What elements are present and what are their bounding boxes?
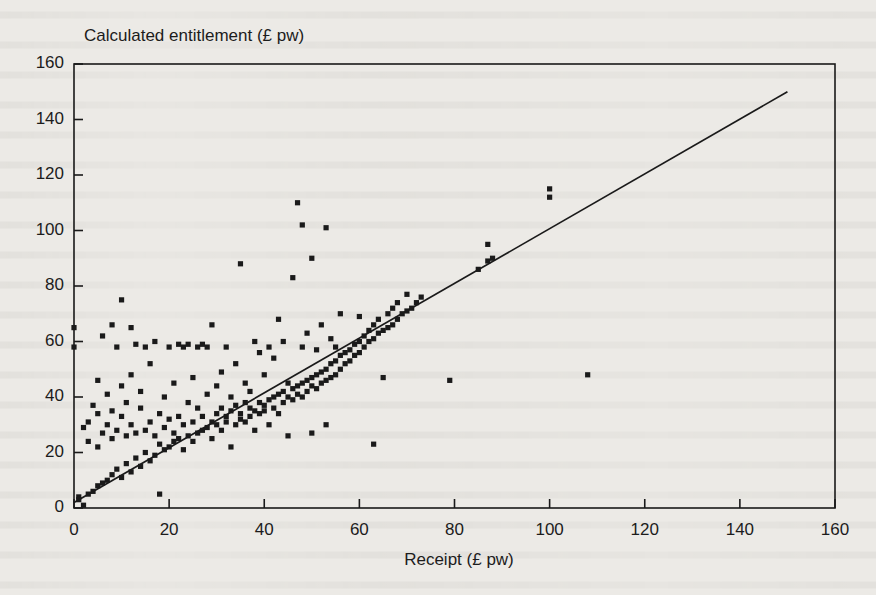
x-tick-label: 80 [435,520,475,540]
scatter-plot-figure: Calculated entitlement (£ pw) 0204060801… [0,0,876,595]
y-tick-label: 60 [8,331,64,351]
x-tick-label: 140 [720,520,760,540]
plot-canvas [0,0,876,595]
y-tick-label: 40 [8,386,64,406]
x-tick-label: 0 [54,520,94,540]
y-tick-label: 120 [8,164,64,184]
y-tick-label: 100 [8,220,64,240]
x-tick-label: 60 [339,520,379,540]
y-tick-label: 20 [8,442,64,462]
x-tick-label: 40 [244,520,284,540]
y-tick-label: 160 [8,53,64,73]
y-tick-label: 140 [8,109,64,129]
x-tick-label: 120 [625,520,665,540]
y-tick-label: 80 [8,275,64,295]
data-points [71,186,590,508]
x-tick-label: 20 [149,520,189,540]
x-tick-label: 100 [530,520,570,540]
x-axis-title: Receipt (£ pw) [0,550,876,570]
x-tick-label: 160 [815,520,855,540]
y-tick-label: 0 [8,497,64,517]
x-axis-title-text: Receipt (£ pw) [404,550,514,569]
